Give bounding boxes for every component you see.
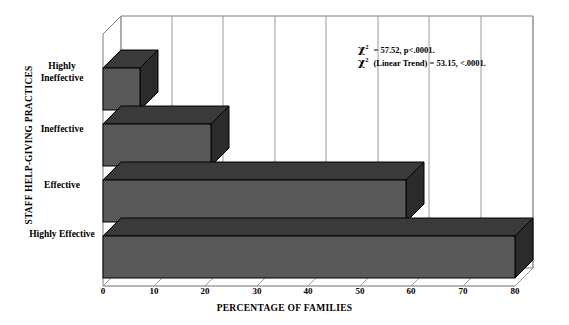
bar-highly-ineffective [103, 50, 158, 110]
annotation-chi-square-linear-trend-text: (Linear Trend) = 53.15, <.0001. [374, 58, 486, 68]
annotation-chi-square-linear-trend: χ2(Linear Trend) = 53.15, <.0001. [358, 53, 486, 66]
x-tick-label-50: 50 [345, 286, 375, 296]
chi-superscript: 2 [365, 43, 368, 50]
x-tick-label-70: 70 [448, 286, 478, 296]
x-tick-label-80: 80 [500, 286, 530, 296]
statistics-annotation: χ2= 57.52, p<.0001. χ2(Linear Trend) = 5… [358, 40, 486, 66]
chart-container: STAFF HELP-GIVING PRACTICES Highly Ineff… [0, 0, 569, 325]
x-tick-label-60: 60 [396, 286, 426, 296]
x-axis-title: PERCENTAGE OF FAMILIES [0, 303, 569, 313]
x-tick-label-0: 0 [88, 286, 118, 296]
x-tick-label-20: 20 [190, 286, 220, 296]
x-tick-label-30: 30 [242, 286, 272, 296]
bar-effective [103, 162, 424, 222]
bar-ineffective [103, 106, 229, 166]
annotation-chi-square: χ2= 57.52, p<.0001. [358, 40, 486, 53]
chi-superscript-trend: 2 [365, 56, 368, 63]
bar-highly-effective [103, 218, 533, 278]
x-tick-label-40: 40 [293, 286, 323, 296]
x-tick-label-10: 10 [139, 286, 169, 296]
